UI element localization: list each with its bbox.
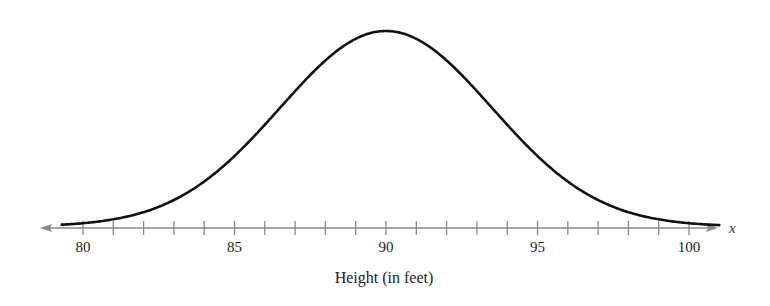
- normal-distribution-curve: [62, 31, 720, 225]
- axis-variable-label: x: [728, 220, 736, 236]
- x-axis-tick-labels: 80859095100: [76, 239, 701, 255]
- tick-label: 95: [530, 239, 545, 255]
- bell-curve-chart: 80859095100 x Height (in feet): [0, 0, 770, 306]
- x-axis: 80859095100 x: [40, 220, 736, 255]
- x-axis-title: Height (in feet): [335, 269, 434, 287]
- tick-label: 80: [76, 239, 91, 255]
- tick-label: 100: [678, 239, 701, 255]
- tick-label: 90: [379, 239, 394, 255]
- tick-label: 85: [227, 239, 242, 255]
- x-axis-ticks: [83, 221, 689, 235]
